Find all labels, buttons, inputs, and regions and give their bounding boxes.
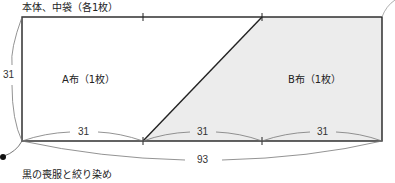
caption: 黒の喪服と絞り染め	[22, 170, 112, 180]
seg1-arc-left	[22, 132, 70, 141]
marker-dot	[0, 154, 6, 160]
total-width-dimension: 93	[197, 155, 208, 165]
segment-3-dimension: 31	[317, 127, 328, 137]
segment-2-dimension: 31	[197, 127, 208, 137]
piece-b-shading	[143, 17, 382, 141]
diagram-title: 本体、中袋（各1枚）	[22, 3, 118, 13]
height-arc-top	[12, 17, 22, 65]
corner-curve	[382, 0, 395, 17]
height-arc-bottom	[12, 85, 22, 141]
piece-b-label: B布（1枚）	[288, 75, 341, 85]
total-arc-left	[22, 141, 185, 160]
lead-line	[4, 141, 22, 156]
piece-a-label: A布（1枚）	[62, 75, 115, 85]
segment-1-dimension: 31	[78, 127, 89, 137]
height-dimension: 31	[3, 70, 14, 80]
seg1-arc-right	[98, 132, 143, 141]
total-arc-right	[222, 141, 382, 160]
